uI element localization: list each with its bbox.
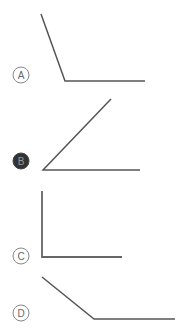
option-d-angle xyxy=(42,277,175,319)
option-b-label: B xyxy=(18,156,25,167)
option-d[interactable]: D xyxy=(13,277,175,321)
option-d-label: D xyxy=(17,308,24,319)
option-c-label: C xyxy=(17,251,24,262)
option-c[interactable]: C xyxy=(13,191,122,264)
option-a[interactable]: A xyxy=(13,14,145,83)
option-a-label: A xyxy=(18,70,25,81)
option-a-angle xyxy=(41,14,145,81)
angle-options-figure: A B C D xyxy=(0,0,187,336)
option-b[interactable]: B xyxy=(13,99,140,170)
option-c-angle xyxy=(42,191,122,257)
option-b-angle xyxy=(43,99,140,170)
